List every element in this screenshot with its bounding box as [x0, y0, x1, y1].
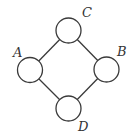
- node-label-d: D: [77, 119, 89, 134]
- node-a: [18, 58, 43, 83]
- node-label-a: A: [12, 45, 22, 60]
- node-label-c: C: [82, 5, 92, 20]
- node-c: [56, 18, 81, 43]
- node-label-b: B: [116, 44, 127, 59]
- nodes-group: [18, 18, 120, 121]
- graph-svg: CABD: [0, 0, 135, 139]
- diagram-canvas: CABD: [0, 0, 135, 139]
- node-d: [56, 96, 81, 121]
- node-b: [94, 57, 119, 82]
